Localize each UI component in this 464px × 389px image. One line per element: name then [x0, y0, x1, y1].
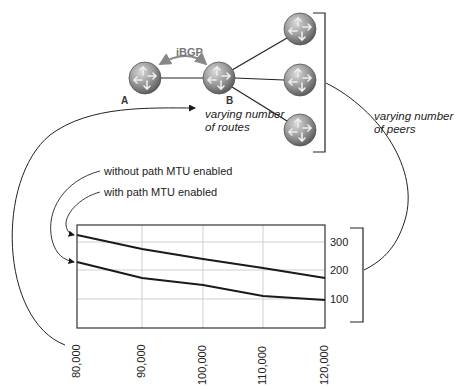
- x-tick-120000: 120,000: [318, 345, 330, 385]
- legend-without-mtu: without path MTU enabled: [104, 165, 232, 178]
- without-mtu-pointer: [51, 171, 100, 262]
- peers-annotation-line1: varying number: [374, 110, 453, 123]
- yaxis-bracket: [350, 228, 363, 322]
- peer-router-1-icon: [284, 13, 316, 45]
- y-tick-100: 100: [330, 293, 348, 305]
- chart-frame: [77, 225, 325, 328]
- with-mtu-pointer: [66, 192, 100, 235]
- peers-annotation-line2: of peers: [374, 123, 416, 136]
- x-tick-110000: 110,000: [256, 346, 268, 385]
- routes-annotation-line1: varying number: [205, 108, 284, 121]
- peer-router-3-icon: [284, 114, 316, 146]
- diagram-canvas: [0, 0, 464, 389]
- series-without-mtu-line: [77, 262, 325, 300]
- x-tick-90000: 90,000: [135, 344, 147, 378]
- routes-to-xaxis-curve: [12, 108, 195, 345]
- chart-grid: [77, 225, 325, 328]
- router-a-icon: [129, 62, 161, 94]
- router-b-icon: [203, 62, 235, 94]
- router-b-label: B: [226, 94, 233, 107]
- router-a-label: A: [121, 94, 128, 107]
- x-tick-100000: 100,000: [196, 345, 208, 385]
- routes-annotation-line2: of routes: [205, 121, 250, 134]
- legend-with-mtu: with path MTU enabled: [104, 186, 217, 199]
- y-tick-300: 300: [330, 236, 348, 248]
- x-tick-80000: 80,000: [70, 344, 82, 378]
- y-tick-200: 200: [330, 264, 348, 276]
- ibgp-label: iBGP: [176, 46, 203, 59]
- peer-router-2-icon: [284, 64, 316, 96]
